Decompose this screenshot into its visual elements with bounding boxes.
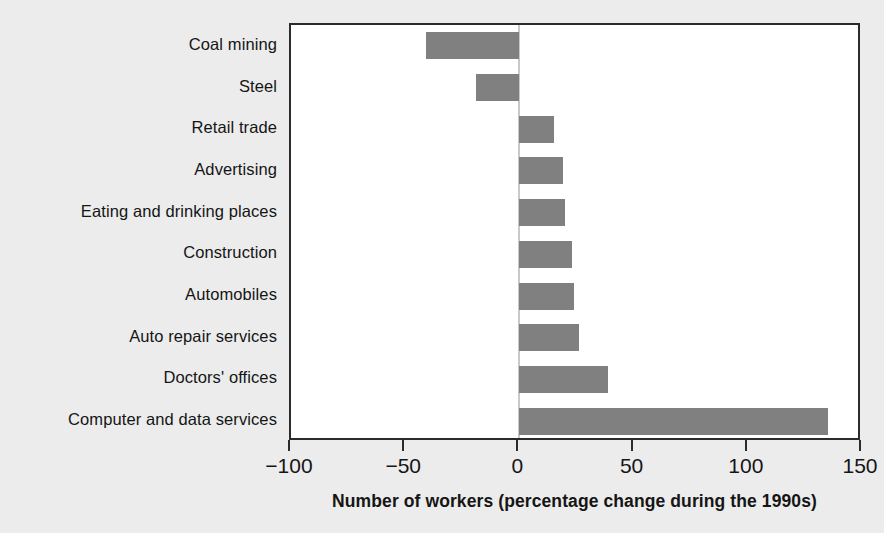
category-label: Construction (183, 243, 277, 261)
category-label: Steel (239, 77, 277, 95)
x-tick-mark (288, 440, 290, 451)
bar (519, 408, 827, 435)
bar (519, 199, 565, 226)
x-tick-label: 100 (728, 454, 763, 478)
bar (519, 241, 572, 268)
plot-area (289, 23, 860, 440)
bar (519, 324, 578, 351)
chart-figure: Coal miningSteelRetail tradeAdvertisingE… (0, 0, 884, 533)
x-tick-mark (631, 440, 633, 451)
category-label: Auto repair services (129, 327, 277, 345)
x-tick-label: 50 (620, 454, 643, 478)
bar (519, 283, 574, 310)
x-tick-label: 0 (512, 454, 524, 478)
category-label: Automobiles (185, 285, 277, 303)
bar (426, 32, 520, 59)
bars-container (291, 25, 858, 438)
category-label: Advertising (194, 160, 277, 178)
category-label: Retail trade (191, 118, 277, 136)
x-tick-label: −100 (265, 454, 312, 478)
category-axis-labels: Coal miningSteelRetail tradeAdvertisingE… (0, 23, 283, 440)
category-label: Computer and data services (68, 410, 277, 428)
x-tick-mark (516, 440, 518, 451)
x-tick-label: 150 (842, 454, 877, 478)
category-label: Eating and drinking places (81, 202, 277, 220)
category-label: Coal mining (189, 35, 277, 53)
bar (519, 157, 562, 184)
x-tick-mark (402, 440, 404, 451)
bar (519, 366, 608, 393)
bar (519, 116, 553, 143)
category-label: Doctors' offices (163, 368, 277, 386)
x-axis-title: Number of workers (percentage change dur… (289, 491, 860, 512)
x-tick-label: −50 (385, 454, 421, 478)
bar (476, 74, 519, 101)
x-tick-mark (859, 440, 861, 451)
x-tick-mark (745, 440, 747, 451)
